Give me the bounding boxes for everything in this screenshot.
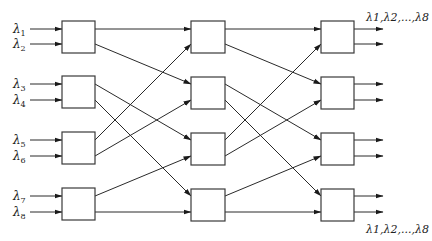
output-label-top: λ1,λ2,...,λ8: [365, 11, 429, 24]
link-s2b1o2-s3b2i1: [225, 44, 321, 84]
stage2-stage3-links: [225, 29, 321, 212]
switching-network-diagram: λ1 λ2 λ3 λ4 λ5 λ6 λ7 λ8: [0, 0, 432, 241]
output-label-bottom: λ1,λ2,...,λ8: [365, 223, 429, 236]
stage1-box-1: [62, 21, 95, 53]
stage1-box-4: [62, 188, 95, 220]
stage1-box-3: [62, 132, 95, 164]
input-label-2: λ2: [12, 37, 26, 53]
link-s1b4o1-s2b3i2: [95, 156, 191, 196]
stage2-box-1: [191, 21, 225, 53]
link-s1b1o2-s2b2i1: [95, 44, 191, 84]
stage1-box-2: [62, 76, 95, 108]
input-label-6: λ6: [12, 149, 26, 165]
stage3-box-3: [321, 133, 354, 165]
input-label-7: λ7: [12, 189, 26, 205]
input-label-1: λ1: [12, 22, 26, 38]
input-label-4: λ4: [12, 93, 26, 109]
stage3-box-1: [321, 21, 354, 53]
stage3-box-2: [321, 77, 354, 109]
link-s2b4o1-s3b3i2: [225, 156, 321, 196]
stage2-box-3: [191, 133, 225, 165]
stage-1: [62, 21, 95, 220]
stage1-stage2-links: [95, 29, 191, 212]
stage-3: [321, 21, 354, 221]
output-arrows: [354, 29, 383, 212]
input-label-8: λ8: [12, 205, 26, 221]
stage-2: [191, 21, 225, 221]
input-label-5: λ5: [12, 133, 26, 149]
stage3-box-4: [321, 189, 354, 221]
stage2-box-2: [191, 77, 225, 109]
input-label-3: λ3: [12, 77, 26, 93]
input-arrows: [30, 29, 62, 212]
input-labels: λ1 λ2 λ3 λ4 λ5 λ6 λ7 λ8: [12, 22, 26, 221]
stage2-box-4: [191, 189, 225, 221]
